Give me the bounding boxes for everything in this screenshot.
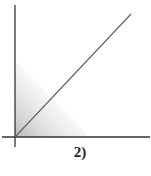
diagram: 2) — [0, 0, 151, 176]
figure-label: 2) — [60, 144, 100, 161]
diagonal-line — [15, 14, 131, 137]
